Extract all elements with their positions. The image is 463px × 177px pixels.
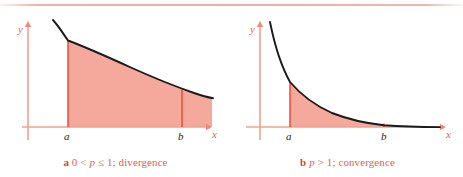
plot-a-graphic [0, 8, 231, 153]
x-axis-label-a: x [212, 129, 217, 140]
panel-b-caption-trail: > 1; [318, 156, 336, 168]
tick-label-a-lower: a [64, 131, 70, 142]
tick-label-b-upper: b [381, 131, 387, 142]
panel-a-caption-result: divergence [119, 156, 168, 168]
tick-label-a-upper: b [178, 131, 184, 142]
plot-b-graphic [232, 8, 463, 153]
panel-b-caption-result: convergence [338, 156, 394, 168]
panel-a-caption-trail: ≤ 1; [98, 156, 116, 168]
panel-a-caption-tag: a [63, 156, 69, 168]
y-axis-label-a: y [18, 24, 23, 35]
x-axis-label-b: x [446, 129, 451, 140]
panel-b-caption-tag: b [300, 156, 306, 168]
figure-root: y x a b a 0 < p ≤ 1; divergence [0, 0, 463, 177]
figure-panel-a: y x a b a 0 < p ≤ 1; divergence [0, 8, 231, 177]
panel-b-caption: b p > 1; convergence [232, 156, 463, 168]
top-divider-rule [0, 4, 463, 6]
shaded-region-a [68, 41, 212, 128]
figure-panel-b: y x a b b p > 1; convergence [232, 8, 463, 177]
panel-b-caption-variable: p [309, 156, 315, 168]
panel-a-caption: a 0 < p ≤ 1; divergence [0, 156, 231, 168]
tick-label-b-lower: a [286, 131, 292, 142]
panel-a-caption-variable: p [89, 156, 95, 168]
y-axis-label-b: y [250, 24, 255, 35]
shaded-region-b [290, 82, 436, 127]
panel-a-caption-lead: 0 < [72, 156, 87, 168]
